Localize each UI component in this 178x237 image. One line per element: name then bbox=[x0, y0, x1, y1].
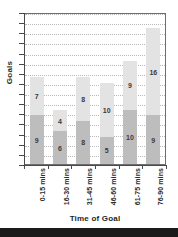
x-axis-tick bbox=[48, 165, 49, 169]
bar-segment-lower[interactable]: 6 bbox=[53, 131, 67, 164]
bar-column[interactable]: 88 bbox=[76, 14, 90, 164]
bar-segment-upper[interactable]: 10 bbox=[100, 83, 114, 137]
y-axis-tick bbox=[19, 114, 24, 115]
x-axis-label: 16-30 mins bbox=[63, 168, 70, 212]
bar-value-label: 5 bbox=[105, 147, 109, 154]
bar-value-label: 6 bbox=[58, 144, 62, 151]
bar-value-label: 4 bbox=[58, 117, 62, 124]
bar-value-label: 9 bbox=[151, 136, 155, 143]
y-axis-tick bbox=[19, 23, 24, 24]
y-axis-tick bbox=[19, 104, 24, 105]
y-axis-tick bbox=[19, 94, 24, 95]
x-axis-title: Time of Goal bbox=[24, 214, 166, 223]
y-axis-tick bbox=[19, 43, 24, 44]
plot-area: 794688105910169 bbox=[24, 13, 166, 165]
x-axis-labels: 0-15 mins16-30 mins31-45 mins46-60 mins6… bbox=[24, 170, 166, 214]
y-axis-tick bbox=[19, 155, 24, 156]
bar-column[interactable]: 79 bbox=[30, 14, 44, 164]
bar-segment-upper[interactable]: 4 bbox=[53, 110, 67, 132]
x-axis-tick bbox=[119, 165, 120, 169]
bar-column[interactable]: 46 bbox=[53, 14, 67, 164]
bar-segment-upper[interactable]: 7 bbox=[30, 77, 44, 115]
bar-column[interactable]: 910 bbox=[123, 14, 137, 164]
x-axis-tick bbox=[24, 165, 25, 169]
y-axis-tick bbox=[19, 54, 24, 55]
bar-value-label: 9 bbox=[128, 82, 132, 89]
x-axis-tick bbox=[95, 165, 96, 169]
bar-column[interactable]: 169 bbox=[146, 14, 160, 164]
x-axis-label: 76-90 mins bbox=[157, 168, 164, 212]
stacked-bar-chart: 794688105910169 Goals 0-15 mins16-30 min… bbox=[0, 0, 178, 237]
y-axis-tick bbox=[19, 145, 24, 146]
bar-segment-lower[interactable]: 9 bbox=[30, 115, 44, 164]
y-axis-title: Goals bbox=[5, 51, 14, 95]
y-axis-tick bbox=[19, 84, 24, 85]
bar-column[interactable]: 105 bbox=[100, 14, 114, 164]
bar-value-label: 16 bbox=[149, 68, 157, 75]
bar-segment-lower[interactable]: 5 bbox=[100, 137, 114, 164]
bar-value-label: 8 bbox=[81, 139, 85, 146]
bar-segment-upper[interactable]: 8 bbox=[76, 77, 90, 120]
x-axis-label: 0-15 mins bbox=[39, 168, 46, 212]
x-axis-tick bbox=[166, 165, 167, 169]
x-axis-tick bbox=[142, 165, 143, 169]
bar-segment-upper[interactable]: 16 bbox=[146, 28, 160, 115]
bar-segment-lower[interactable]: 8 bbox=[76, 121, 90, 164]
bar-segment-lower[interactable]: 10 bbox=[123, 110, 137, 164]
x-axis-label: 61-75 mins bbox=[134, 168, 141, 212]
bar-value-label: 10 bbox=[103, 106, 111, 113]
bar-segment-upper[interactable]: 9 bbox=[123, 61, 137, 110]
y-axis-tick bbox=[19, 13, 24, 14]
y-axis-tick bbox=[19, 124, 24, 125]
y-axis-tick bbox=[19, 135, 24, 136]
x-axis-label: 46-60 mins bbox=[110, 168, 117, 212]
y-axis-tick bbox=[19, 64, 24, 65]
x-axis-tick bbox=[71, 165, 72, 169]
x-axis-label: 31-45 mins bbox=[86, 168, 93, 212]
bar-value-label: 8 bbox=[81, 95, 85, 102]
y-axis-tick bbox=[19, 74, 24, 75]
bar-value-label: 9 bbox=[35, 136, 39, 143]
footer-band bbox=[0, 228, 178, 237]
y-axis-tick bbox=[19, 33, 24, 34]
bar-group: 794688105910169 bbox=[25, 14, 165, 164]
y-axis-ticks bbox=[19, 13, 24, 165]
bar-value-label: 10 bbox=[126, 133, 134, 140]
bar-value-label: 7 bbox=[35, 93, 39, 100]
bar-segment-lower[interactable]: 9 bbox=[146, 115, 160, 164]
